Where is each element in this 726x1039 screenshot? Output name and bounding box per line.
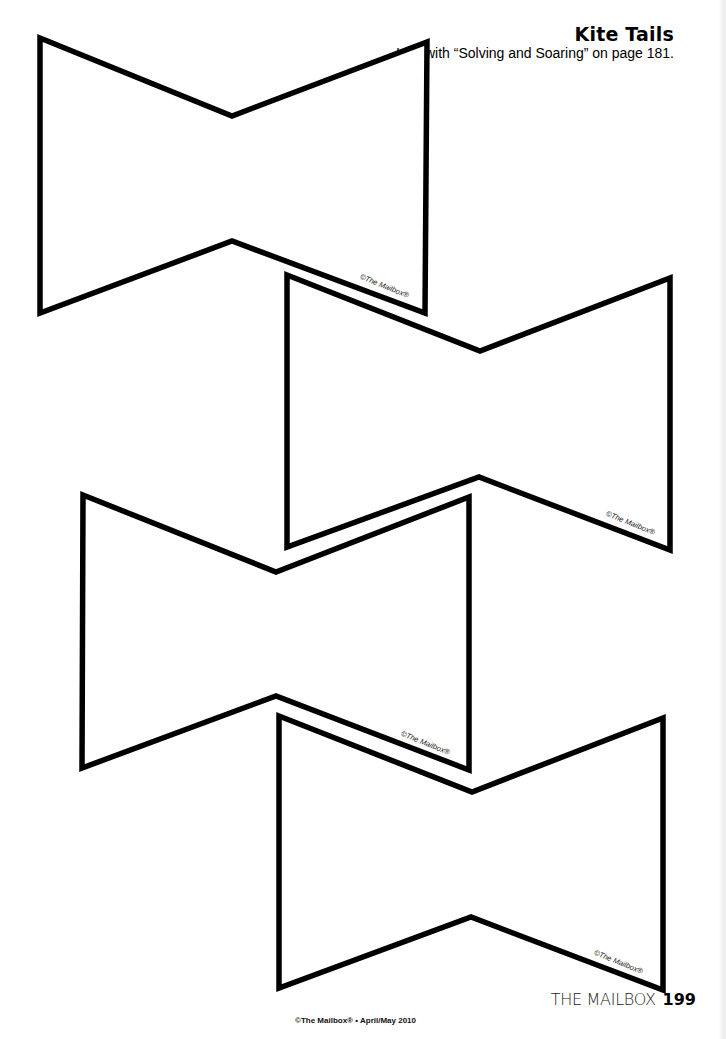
kite-tail-shape-2 [287, 275, 670, 550]
page-number: 199 [663, 990, 696, 1009]
footer-brand-block: THE MAILBOX 199 [551, 990, 696, 1009]
footer-brand: THE MAILBOX [551, 990, 656, 1009]
kite-tail-shape-3 [82, 495, 469, 770]
footer-copyright: ©The Mailbox® • April/May 2010 [295, 1016, 416, 1025]
kite-tail-shape-1 [40, 38, 427, 313]
